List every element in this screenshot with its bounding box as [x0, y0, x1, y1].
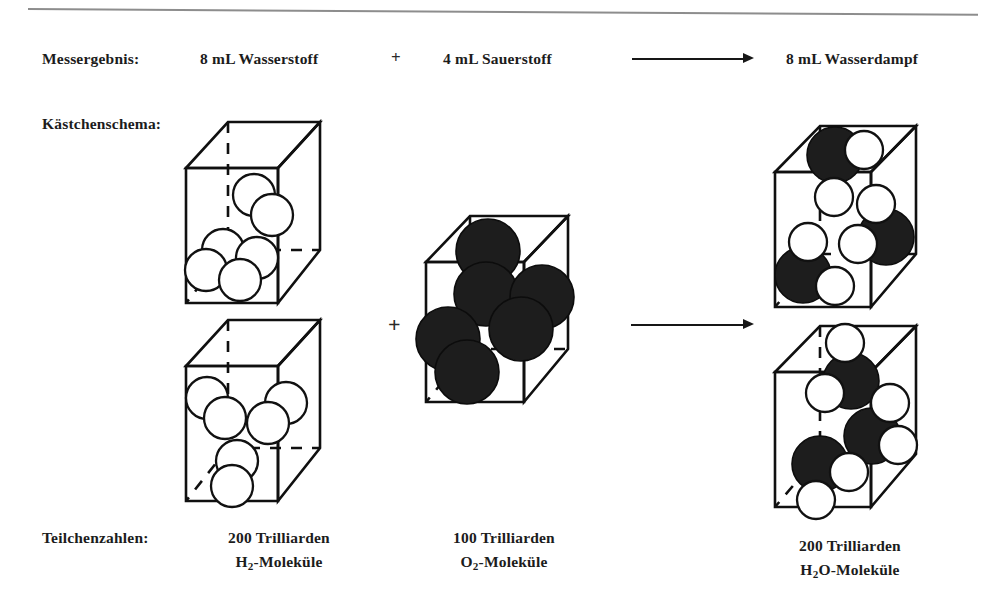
hydrogen-box-bottom [180, 313, 330, 508]
water-count-species: H2O-Moleküle [770, 559, 930, 582]
measurement-reactant-oxygen: 4 mL Sauerstoff [443, 48, 552, 70]
hydrogen-box-top [180, 115, 330, 310]
oxygen-count-species: O2-Moleküle [424, 551, 584, 574]
water-count-amount: 200 Trilliarden [770, 535, 930, 557]
measurement-product-water-vapour: 8 mL Wasserdampf [786, 48, 918, 70]
hydrogen-count-amount: 200 Trilliarden [195, 527, 363, 549]
schema-row-label: Kästchenschema: [42, 113, 161, 135]
water-box-top [768, 118, 928, 313]
oxygen-box [420, 209, 580, 409]
measurement-reactant-hydrogen: 8 mL Wasserstoff [200, 48, 318, 70]
counts-row-label: Teilchenzahlen: [42, 527, 149, 549]
oxygen-count-amount: 100 Trilliarden [424, 527, 584, 549]
measurement-reaction-arrow [632, 57, 754, 60]
measurement-plus-sign: + [391, 48, 401, 68]
hydrogen-count-species: H2-Moleküle [195, 551, 363, 574]
water-box-bottom [768, 318, 928, 513]
diagram-page: Messergebnis: 8 mL Wasserstoff + 4 mL Sa… [0, 0, 998, 599]
top-divider-rule [28, 8, 978, 16]
schema-plus-sign: + [388, 312, 401, 338]
schema-reaction-arrow [631, 323, 755, 326]
measurement-row-label: Messergebnis: [42, 48, 139, 70]
